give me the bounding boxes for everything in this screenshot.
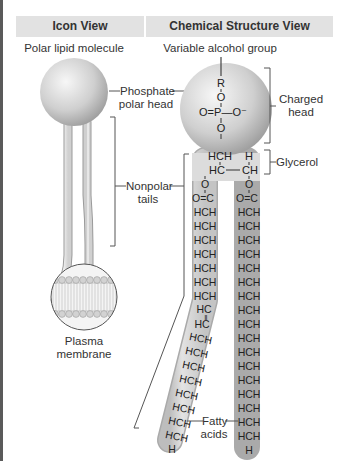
svg-text:H: H [245,444,253,456]
svg-text:HCH: HCH [238,416,261,428]
charged-label: Charged [276,93,326,106]
polar-lipid-molecule-label: Polar lipid molecule [17,42,131,55]
svg-text:HCH: HCH [194,262,217,274]
svg-text:HCH: HCH [238,248,261,260]
variable-alcohol-group-label: Variable alcohol group [160,42,280,55]
svg-text:HCH: HCH [194,276,217,288]
svg-text:HCH: HCH [238,290,261,302]
svg-text:O: O [217,122,226,134]
svg-text:HCH: HCH [238,276,261,288]
svg-text:HCH: HCH [238,374,261,386]
svg-text:HCH: HCH [238,360,261,372]
svg-text:HC: HC [209,164,225,176]
svg-text:HCH: HCH [194,206,217,218]
svg-text:CH: CH [242,164,258,176]
svg-text:HCH: HCH [194,234,217,246]
svg-text:O: O [201,178,209,190]
acids-label: acids [200,428,228,441]
svg-text:HCH: HCH [238,346,261,358]
svg-text:HCH: HCH [238,220,261,232]
tails-label: tails [126,193,170,206]
plasma-membrane-icon [50,264,120,330]
svg-text:HCH: HCH [238,318,261,330]
svg-text:H: H [245,150,253,162]
svg-text:HCH: HCH [238,388,261,400]
svg-text:HCH: HCH [208,150,232,162]
svg-text:O: O [245,178,253,190]
glycerol-label: Glycerol [276,156,326,169]
plasma-label: Plasma [54,335,114,348]
svg-text:HC: HC [194,318,210,330]
membrane-label: membrane [54,348,114,361]
polar-head-label: polar head [118,98,174,111]
svg-text:O=P—O⁻: O=P—O⁻ [199,106,247,118]
svg-text:HCH: HCH [238,262,261,274]
svg-text:R: R [217,77,225,89]
svg-text:HCH: HCH [194,290,217,302]
fatty-label: Fatty [202,415,226,428]
nonpolar-bracket-left [110,117,126,246]
svg-text:HCH: HCH [238,402,261,414]
svg-text:O=C: O=C [192,192,214,204]
svg-text:HCH: HCH [238,206,261,218]
svg-text:HCH: HCH [238,430,261,442]
svg-text:HCH: HCH [238,304,261,316]
svg-text:H: H [168,443,176,455]
phosphate-label: Phosphate [120,85,172,98]
head-label: head [276,106,326,119]
svg-text:O=C: O=C [236,192,258,204]
nonpolar-label: Nonpolar [126,180,170,193]
lipid-diagram: R O O=P—O⁻ O HCH H HC CH O O=C HCH HCH H… [0,0,338,461]
icon-polar-head-sphere [40,58,108,126]
svg-text:HCH: HCH [194,220,217,232]
svg-text:HCH: HCH [194,248,217,260]
svg-text:HCH: HCH [238,332,261,344]
svg-text:O: O [217,91,226,103]
svg-text:HCH: HCH [238,234,261,246]
